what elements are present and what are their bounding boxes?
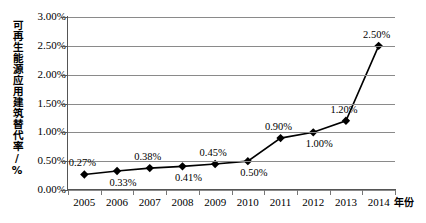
y-tick-mark xyxy=(61,17,68,18)
y-tick-mark xyxy=(61,75,68,76)
data-point-marker[interactable] xyxy=(178,162,186,170)
x-tick-mark xyxy=(232,190,233,195)
y-tick-label: 1.50% xyxy=(20,98,66,109)
data-point-label: 0.90% xyxy=(253,121,305,132)
x-tick-mark xyxy=(395,190,396,195)
data-point-label: 1.00% xyxy=(293,138,345,149)
data-point-label: 0.33% xyxy=(97,177,149,188)
y-tick-label: 0.00% xyxy=(20,184,66,195)
gridline xyxy=(68,46,395,47)
data-point-label: 2.50% xyxy=(351,29,403,40)
y-tick-mark xyxy=(61,46,68,47)
y-tick-label: 2.50% xyxy=(20,40,66,51)
x-tick-mark xyxy=(264,190,265,195)
x-tick-mark xyxy=(199,190,200,195)
y-tick-mark xyxy=(61,190,68,191)
x-tick-mark xyxy=(166,190,167,195)
y-tick-label: 3.00% xyxy=(20,11,66,22)
gridline xyxy=(68,75,395,76)
y-tick-label: 1.00% xyxy=(20,126,66,137)
data-point-marker[interactable] xyxy=(342,117,350,125)
data-point-marker[interactable] xyxy=(146,164,154,172)
y-axis-title: 可再生能源应用建筑替代率/% xyxy=(2,8,22,188)
data-point-label: 0.41% xyxy=(162,172,214,183)
x-tick-mark xyxy=(362,190,363,195)
x-tick-label: 2014 xyxy=(359,196,399,208)
x-tick-mark xyxy=(297,190,298,195)
data-point-label: 0.50% xyxy=(228,167,280,178)
data-point-label: 0.38% xyxy=(122,151,174,162)
data-point-label: 0.45% xyxy=(187,147,239,158)
x-tick-mark xyxy=(68,190,69,195)
x-tick-mark xyxy=(101,190,102,195)
y-axis-tick-labels: 0.00%0.50%1.00%1.50%2.00%2.50%3.00% xyxy=(20,0,66,223)
gridline xyxy=(68,132,395,133)
data-point-marker[interactable] xyxy=(80,170,88,178)
gridline xyxy=(68,161,395,162)
data-point-marker[interactable] xyxy=(113,167,121,175)
line-chart: 可再生能源应用建筑替代率/% 0.00%0.50%1.00%1.50%2.00%… xyxy=(0,0,426,223)
y-tick-mark xyxy=(61,132,68,133)
data-point-label: 1.20% xyxy=(318,104,370,115)
x-tick-mark xyxy=(330,190,331,195)
y-tick-label: 2.00% xyxy=(20,69,66,80)
gridline xyxy=(68,17,395,18)
data-point-label: 0.27% xyxy=(56,157,108,168)
y-tick-mark xyxy=(61,104,68,105)
x-tick-mark xyxy=(133,190,134,195)
